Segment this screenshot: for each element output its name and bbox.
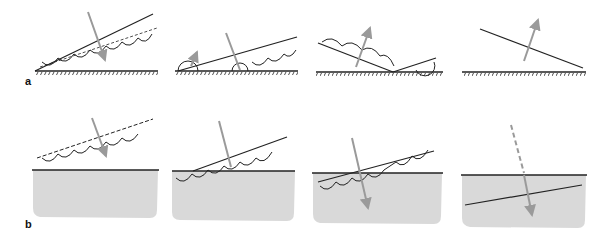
panel-b2 <box>172 121 295 221</box>
row-label-b: b <box>25 218 32 230</box>
panel-b1 <box>32 118 159 218</box>
arrow-icon <box>524 20 538 61</box>
panel-a4 <box>462 20 586 76</box>
diagram-canvas <box>0 0 607 236</box>
panel-b4 <box>461 125 587 228</box>
panel-b3 <box>312 138 443 224</box>
panel-a1 <box>35 12 158 75</box>
row-label-a: a <box>25 75 31 87</box>
arrow-icon <box>191 52 197 66</box>
panel-a2 <box>175 33 298 75</box>
panel-a3 <box>316 28 443 76</box>
arrow-icon <box>92 118 106 156</box>
